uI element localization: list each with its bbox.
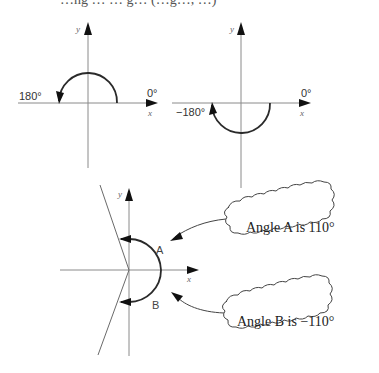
arc-arrowhead-icon [56, 91, 64, 104]
x-axis-arrowhead-icon [146, 99, 158, 107]
y-axis-label: y [75, 24, 80, 34]
panel-angles-a-b: y x A B Angle A is 110° Angle B is −110° [60, 181, 335, 356]
terminal-ray-a [100, 185, 129, 270]
callout-a-cloud: Angle A is 110° [224, 181, 334, 235]
callout-a-text: Angle A is 110° [246, 220, 335, 235]
angle-diagram: …ng … … g… (…g…, …) y x 180° 0° y x −180… [0, 0, 379, 373]
y-axis-arrowhead-icon [84, 22, 92, 35]
start-angle-label: 0° [301, 87, 312, 99]
callout-b-pointer [177, 297, 224, 313]
cutoff-heading-text: …ng … … g… (…g…, …) [60, 0, 217, 8]
x-axis-arrowhead-icon [299, 99, 311, 107]
y-axis-arrowhead-icon [237, 22, 245, 35]
terminal-ray-b [98, 270, 129, 355]
angle-b-arrowhead-icon [119, 298, 131, 306]
y-axis-arrowhead-icon [125, 188, 133, 201]
y-axis-label: y [229, 24, 234, 34]
x-axis-label: x [299, 108, 304, 118]
y-axis-label: y [117, 189, 122, 199]
callout-b-cloud: Angle B is −110° [222, 275, 334, 329]
angle-b-label: B [152, 299, 159, 311]
panel-negative-180: y x −180° 0° [172, 22, 312, 188]
end-angle-label: −180° [176, 106, 205, 118]
end-angle-label: 180° [19, 90, 42, 102]
angle-a-label: A [156, 244, 164, 256]
x-axis-label: x [147, 108, 152, 118]
callout-b-text: Angle B is −110° [237, 314, 334, 329]
callout-a-pointer [175, 219, 226, 237]
arc-arrowhead-icon [209, 102, 217, 115]
x-axis-arrowhead-icon [187, 266, 199, 274]
angle-a-arrowhead-icon [119, 235, 131, 243]
x-axis-label: x [186, 274, 191, 284]
panel-positive-180: y x 180° 0° [18, 22, 158, 168]
start-angle-label: 0° [147, 87, 158, 99]
